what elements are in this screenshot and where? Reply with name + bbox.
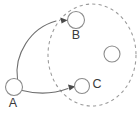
edge-a-to-b-arrowhead: [60, 18, 67, 24]
edge-a-to-b: [17, 21, 56, 79]
node-unlabeled[interactable]: [104, 46, 120, 62]
node-c-label: C: [92, 77, 101, 91]
node-a-label: A: [9, 96, 18, 110]
node-a[interactable]: [6, 79, 23, 96]
node-b[interactable]: [68, 12, 85, 29]
node-c[interactable]: [75, 79, 90, 94]
diagram-canvas: A B C: [0, 0, 138, 117]
graph-diagram: A B C: [0, 0, 138, 117]
edge-a-to-c: [22, 89, 68, 94]
node-b-label: B: [72, 28, 80, 42]
